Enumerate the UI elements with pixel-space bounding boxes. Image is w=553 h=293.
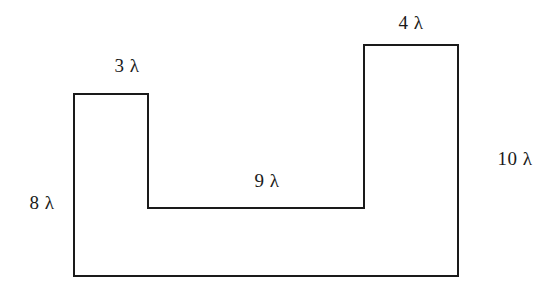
dimension-label-left-height: 8 λ xyxy=(30,193,55,212)
crenellated-polygon-outline xyxy=(74,45,458,276)
polygon-outline-svg xyxy=(0,0,553,293)
dimension-label-inner-width: 9 λ xyxy=(255,171,280,190)
geometry-figure-canvas: 3 λ 4 λ 8 λ 9 λ 10 λ xyxy=(0,0,553,293)
dimension-label-right-height: 10 λ xyxy=(498,149,533,168)
dimension-label-top-right-width: 4 λ xyxy=(399,13,424,32)
dimension-label-top-left-width: 3 λ xyxy=(115,56,140,75)
